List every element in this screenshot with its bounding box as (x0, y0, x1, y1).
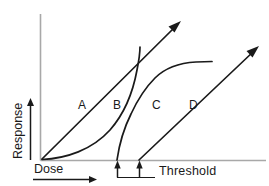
x-axis-title: Dose (34, 162, 63, 176)
threshold-arrow-1-head (114, 161, 120, 169)
threshold-bracket (114, 161, 155, 178)
curve-label-a: A (78, 98, 86, 112)
curve-a (42, 21, 181, 159)
axis-frame (41, 14, 267, 161)
curve-b (42, 47, 140, 160)
curve-label-d: D (189, 98, 198, 112)
threshold-arrow-2-head (136, 161, 142, 169)
y-axis-title: Response (11, 103, 25, 159)
response-axis-arrow (27, 98, 34, 160)
dose-axis-arrow (33, 176, 97, 183)
curve-c (117, 62, 212, 161)
threshold-label: Threshold (159, 164, 216, 178)
dose-response-figure: A B C D Response Dose Threshold (0, 0, 269, 186)
dose-arrow-head (89, 176, 97, 183)
curve-a-path (42, 26, 176, 159)
curve-c-path (117, 62, 212, 161)
curve-label-b: B (113, 98, 121, 112)
figure-canvas: A B C D Response Dose Threshold (0, 0, 269, 186)
curve-b-path (42, 47, 140, 160)
response-arrow-head (27, 98, 34, 106)
curve-label-c: C (152, 98, 161, 112)
